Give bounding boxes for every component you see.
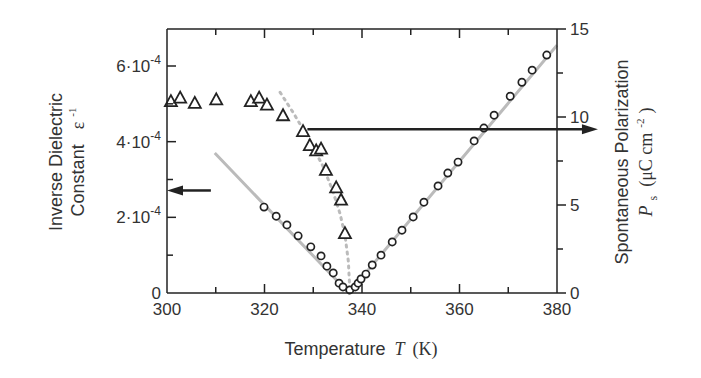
- y-axis-left-title: Inverse Dielectric Constant ε -1: [46, 93, 88, 231]
- y-left-tick-label: 6·10-4: [116, 53, 161, 76]
- y-axis-left-title-line1: Inverse Dielectric: [46, 93, 66, 231]
- data-point-circle: [434, 182, 441, 189]
- y-left-tick-label: 2·10-4: [116, 204, 161, 227]
- arrow-left-head: [167, 185, 183, 195]
- y-left-tick-mantissa: 2·10: [116, 208, 150, 227]
- data-point-triangle: [277, 109, 289, 120]
- curie-weiss-fit-line: [215, 45, 557, 293]
- arrow-right-head: [582, 124, 598, 134]
- y-axis-left-title-constant: Constant: [68, 144, 88, 216]
- y-axis-left-title-symbol: ε: [68, 121, 88, 129]
- data-point-circle: [273, 213, 280, 220]
- y-left-tick-label: 4·10-4: [116, 129, 161, 152]
- y-right-tick-label: 15: [570, 20, 589, 39]
- chart: 30032034036038002·10-44·10-46·10-4051015…: [0, 0, 701, 378]
- data-point-triangle: [174, 92, 186, 103]
- x-axis-title-unit: (K): [413, 339, 438, 360]
- y-axis-right-title-unit: (μC cm: [636, 133, 657, 187]
- x-tick-label: 320: [250, 300, 278, 319]
- data-point-circle: [454, 158, 461, 165]
- plot-frame: [167, 29, 557, 293]
- y-right-tick-label: 10: [570, 108, 589, 127]
- data-point-circle: [317, 252, 324, 259]
- y-left-tick-label: 0: [152, 284, 161, 303]
- data-point-circle: [330, 269, 337, 276]
- y-left-tick-mantissa: 6·10: [116, 57, 150, 76]
- y-right-tick-label: 0: [570, 284, 579, 303]
- y-left-tick-exponent: -4: [150, 53, 161, 67]
- data-point-circle: [307, 243, 314, 250]
- data-point-circle: [295, 232, 302, 239]
- data-point-triangle: [189, 97, 201, 108]
- data-point-circle: [283, 221, 290, 228]
- y-axis-right-title: Spontaneous Polarization P s (μC cm -2 ): [612, 59, 661, 264]
- data-point-circle: [444, 169, 451, 176]
- data-point-circle: [420, 199, 427, 206]
- data-point-circle: [362, 270, 369, 277]
- arrows: [167, 124, 598, 195]
- data-point-circle: [323, 263, 330, 270]
- y-left-tick-mantissa: 4·10: [116, 133, 150, 152]
- data-point-triangle: [210, 93, 222, 104]
- y-axis-right-title-sub: s: [646, 196, 660, 201]
- y-left-tick-exponent: -4: [150, 129, 161, 143]
- y-axis-right-title-unit-exp: -2: [634, 118, 646, 127]
- y-left-tick-exponent: -4: [150, 204, 161, 218]
- x-tick-label: 340: [348, 300, 376, 319]
- data-point-circle: [398, 227, 405, 234]
- data-point-circle: [377, 252, 384, 259]
- data-point-circle: [518, 79, 525, 86]
- y-axis-left-title-line2: Constant ε -1: [66, 108, 88, 217]
- fit-lines: [215, 45, 557, 293]
- data-point-circle: [369, 261, 376, 268]
- y-axis-right-title-unit-close: ): [636, 107, 657, 113]
- x-tick-label: 360: [445, 300, 473, 319]
- y-axis-right-title-symbol: P: [636, 206, 656, 218]
- x-axis-title: Temperature T (K): [284, 339, 437, 360]
- x-axis-title-symbol: T: [395, 339, 407, 359]
- data-point-circle: [491, 112, 498, 119]
- data-markers: [165, 51, 550, 293]
- data-point-circle: [543, 51, 550, 58]
- tick-labels: 30032034036038002·10-44·10-46·10-4051015: [116, 20, 589, 319]
- axis-ticks: [167, 29, 566, 293]
- data-point-triangle: [339, 227, 351, 238]
- data-point-circle: [389, 238, 396, 245]
- data-point-circle: [471, 137, 478, 144]
- y-axis-right-title-line1: Spontaneous Polarization: [612, 59, 632, 264]
- data-point-triangle: [297, 125, 309, 136]
- data-point-triangle: [253, 92, 265, 103]
- data-point-circle: [410, 213, 417, 220]
- x-tick-label: 380: [543, 300, 571, 319]
- x-axis-title-text: Temperature: [284, 339, 385, 359]
- y-right-tick-label: 5: [570, 196, 579, 215]
- data-point-circle: [260, 204, 267, 211]
- y-left-tick-mantissa: 0: [152, 284, 161, 303]
- data-point-circle: [507, 93, 514, 100]
- data-point-circle: [529, 67, 536, 74]
- y-axis-right-title-line2: P s (μC cm -2 ): [628, 107, 661, 217]
- y-axis-left-title-exp: -1: [66, 108, 78, 117]
